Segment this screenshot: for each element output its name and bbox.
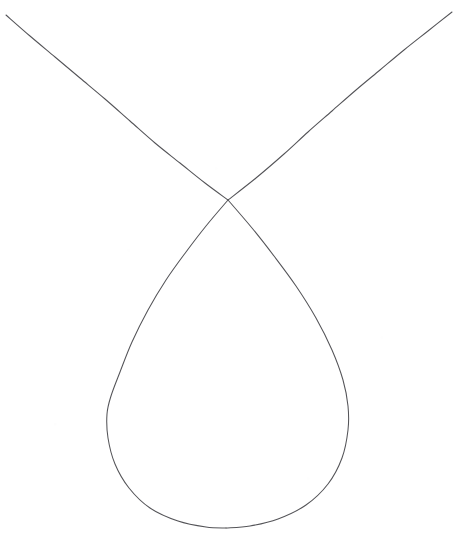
- curve-group: [6, 12, 452, 528]
- right-branch-path: [228, 12, 452, 200]
- loop-right-side-path: [226, 200, 349, 528]
- figure-canvas: Curve with node and loop Single continuo…: [0, 0, 460, 544]
- curve-plot: [0, 0, 460, 544]
- left-branch-path: [6, 15, 228, 200]
- loop-left-side-path: [107, 200, 228, 528]
